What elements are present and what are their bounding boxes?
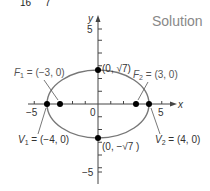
v1-label: V1 = (−4, 0) bbox=[18, 134, 69, 146]
x-axis bbox=[28, 101, 177, 107]
f2-label: F2 = (3, 0) bbox=[133, 69, 178, 81]
y-axis-label: y bbox=[87, 13, 94, 24]
v2-label: V2 = (4, 0) bbox=[155, 134, 200, 146]
v1-pointer bbox=[38, 108, 46, 134]
top-vertex-label: (0, √7) bbox=[102, 63, 131, 74]
f2-dot bbox=[133, 101, 139, 107]
bottom-vertex-dot bbox=[95, 135, 101, 141]
top-fragment-left: 16 bbox=[20, 0, 32, 8]
f1-dot bbox=[57, 101, 63, 107]
f1-label: F1 = (−3, 0) bbox=[14, 67, 65, 79]
origin-label: 0 bbox=[90, 107, 96, 118]
v1-dot bbox=[44, 101, 50, 107]
y-tick-neg5: −5 bbox=[82, 167, 94, 178]
y-axis bbox=[96, 15, 103, 184]
y-tick-pos5: 5 bbox=[87, 24, 93, 35]
x-tick-neg5: −5 bbox=[26, 107, 38, 118]
x-tick-pos5: 5 bbox=[158, 107, 164, 118]
ellipse-diagram: 16 7 Solution x −5 5 0 bbox=[0, 0, 210, 191]
y-arrow-icon bbox=[96, 15, 101, 22]
x-arrow-icon bbox=[170, 102, 177, 107]
solution-label: Solution bbox=[152, 13, 203, 29]
top-vertex-dot bbox=[95, 67, 101, 73]
f1-pointer bbox=[44, 80, 58, 100]
bottom-vertex-label: (0, −√7 ) bbox=[102, 141, 139, 152]
v2-dot bbox=[146, 101, 152, 107]
top-fragment-right: 7 bbox=[45, 0, 51, 8]
x-axis-label: x bbox=[177, 99, 184, 110]
